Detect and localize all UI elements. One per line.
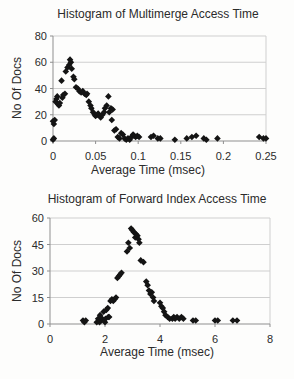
y-tick-label: 15 bbox=[32, 292, 44, 304]
x-tick-label: 0 bbox=[47, 333, 53, 345]
x-axis-label: Average Time (msec) bbox=[100, 345, 214, 359]
y-axis-label: No Of Docs bbox=[10, 57, 24, 119]
y-tick-label: 20 bbox=[35, 109, 47, 121]
x-tick-label: 0.05 bbox=[85, 150, 106, 162]
data-point-marker bbox=[105, 93, 112, 100]
x-tick-label: 8 bbox=[267, 333, 273, 345]
data-point-marker bbox=[58, 77, 65, 84]
chart-title: Histogram of Forward Index Access Time bbox=[48, 192, 267, 206]
y-tick-label: 45 bbox=[32, 239, 44, 251]
data-point-marker bbox=[125, 239, 132, 246]
y-tick-label: 60 bbox=[32, 212, 44, 224]
forward-index-histogram-chart: Histogram of Forward Index Access Time N… bbox=[0, 186, 294, 375]
x-tick-label: 2 bbox=[102, 333, 108, 345]
y-tick-label: 30 bbox=[32, 265, 44, 277]
data-point-marker bbox=[172, 136, 179, 143]
x-tick-label: 0.15 bbox=[170, 150, 191, 162]
plot-area: 01530456002468 bbox=[32, 212, 273, 345]
x-tick-label: 6 bbox=[212, 333, 218, 345]
x-tick-label: 0.1 bbox=[131, 150, 146, 162]
data-point-marker bbox=[234, 317, 241, 324]
forward-index-chart-svg: Histogram of Forward Index Access Time N… bbox=[0, 186, 294, 375]
y-tick-label: 0 bbox=[38, 318, 44, 330]
x-tick-label: 0.25 bbox=[255, 150, 276, 162]
x-tick-label: 4 bbox=[157, 333, 163, 345]
scanned-figure-page: Histogram of Multimerge Access Time No O… bbox=[0, 0, 294, 379]
x-tick-label: 0.2 bbox=[216, 150, 231, 162]
x-tick-label: 0 bbox=[50, 150, 56, 162]
chart-title: Histogram of Multimerge Access Time bbox=[57, 7, 259, 21]
y-axis-label: No Of Docs bbox=[10, 240, 24, 302]
y-tick-label: 0 bbox=[41, 135, 47, 147]
y-tick-label: 80 bbox=[35, 30, 47, 42]
data-point-marker bbox=[108, 117, 115, 124]
plot-area: 02040608000.050.10.150.20.25 bbox=[35, 30, 277, 162]
y-tick-label: 40 bbox=[35, 83, 47, 95]
x-axis-label: Average Time (msec) bbox=[91, 163, 205, 177]
multimerge-histogram-chart: Histogram of Multimerge Access Time No O… bbox=[0, 0, 294, 186]
multimerge-chart-svg: Histogram of Multimerge Access Time No O… bbox=[0, 0, 294, 186]
y-tick-label: 60 bbox=[35, 56, 47, 68]
